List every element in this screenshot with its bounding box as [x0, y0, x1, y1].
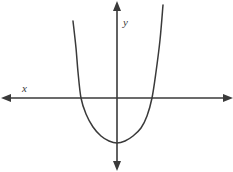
coordinate-plane-svg: x y	[0, 0, 233, 172]
graph-figure: x y	[0, 0, 233, 172]
x-axis-label: x	[21, 82, 27, 94]
y-axis-label: y	[122, 16, 128, 28]
